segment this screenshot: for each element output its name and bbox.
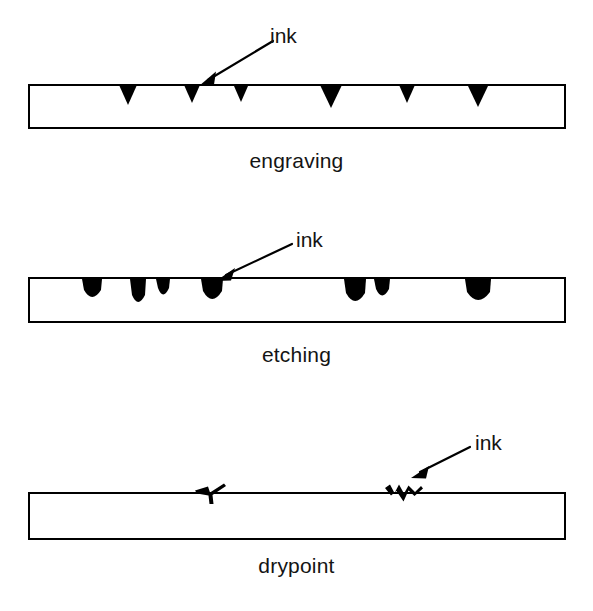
panel-engraving: ink engraving bbox=[0, 0, 593, 200]
panel-drypoint: ink drypoint bbox=[0, 400, 593, 611]
drypoint-cross-section bbox=[0, 400, 593, 611]
caption-etching: etching bbox=[0, 343, 593, 367]
printmaking-diagram: ink engraving ink etching bbox=[0, 0, 593, 611]
plate-drypoint bbox=[29, 493, 565, 539]
ink-label-etching: ink bbox=[296, 228, 323, 252]
ink-arrow-drypoint bbox=[411, 447, 470, 479]
ink-label-drypoint: ink bbox=[475, 431, 502, 455]
ink-label-engraving: ink bbox=[270, 24, 297, 48]
ink-arrow-etching bbox=[216, 244, 292, 281]
panel-etching: ink etching bbox=[0, 200, 593, 400]
ink-arrow-engraving bbox=[199, 41, 273, 86]
caption-drypoint: drypoint bbox=[0, 554, 593, 578]
caption-engraving: engraving bbox=[0, 149, 593, 173]
